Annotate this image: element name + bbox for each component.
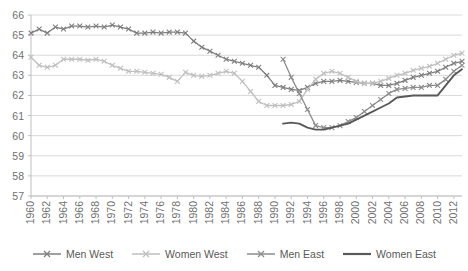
data-point-marker [443, 57, 448, 62]
y-tick-label: 60 [2, 131, 24, 141]
legend-item-men-west[interactable]: Men West [32, 248, 113, 260]
x-tick-label: 1968 [90, 201, 100, 224]
legend-label: Men East [280, 248, 324, 260]
x-tick-label: 2010 [432, 201, 442, 224]
x-tick-label: 1974 [139, 201, 149, 224]
x-tick-label: 1988 [253, 201, 263, 224]
y-tick-label: 59 [2, 151, 24, 161]
x-tick-label: 1978 [171, 201, 181, 224]
data-point-marker [281, 57, 286, 62]
data-point-marker [248, 89, 253, 94]
x-tick-label: 2006 [399, 201, 409, 224]
data-point-marker [460, 63, 465, 68]
x-tick-label: 1986 [236, 201, 246, 224]
x-tick-label: 1960 [25, 201, 35, 224]
x-tick-label: 1962 [41, 201, 51, 224]
chart-container: 57585960616263646566 1960196219641966196… [0, 0, 468, 271]
y-tick-label: 66 [2, 10, 24, 20]
y-tick-label: 61 [2, 111, 24, 121]
legend-item-women-east[interactable]: Women East [342, 248, 436, 260]
line-chart-plot [0, 0, 468, 271]
data-point-marker [370, 103, 375, 108]
legend-item-women-west[interactable]: Women West [131, 248, 228, 260]
series-line [283, 69, 462, 129]
y-tick-label: 63 [2, 70, 24, 80]
legend-item-men-east[interactable]: Men East [246, 248, 324, 260]
x-tick-label: 1984 [220, 201, 230, 224]
legend-swatch-icon [246, 249, 276, 259]
data-point-marker [191, 39, 196, 44]
x-tick-label: 2008 [415, 201, 425, 224]
data-point-marker [313, 77, 318, 82]
series-women-west [29, 51, 465, 108]
y-tick-label: 57 [2, 191, 24, 201]
x-tick-label: 1994 [302, 201, 312, 224]
gridlines [31, 15, 462, 196]
data-point-marker [443, 65, 448, 70]
data-point-marker [199, 45, 204, 50]
data-point-marker [256, 99, 261, 104]
legend-swatch-icon [131, 249, 161, 259]
legend-swatch-icon [342, 249, 372, 259]
series-women-east [283, 69, 462, 129]
data-point-marker [362, 109, 367, 114]
x-tick-label: 1992 [285, 201, 295, 224]
x-tick-label: 1980 [188, 201, 198, 224]
x-tick-label: 2002 [367, 201, 377, 224]
data-point-marker [175, 79, 180, 84]
legend-swatch-icon [32, 249, 62, 259]
y-tick-label: 62 [2, 90, 24, 100]
legend-label: Women East [376, 248, 436, 260]
x-tick-label: 1976 [155, 201, 165, 224]
x-tick-label: 1990 [269, 201, 279, 224]
x-tick-label: 1970 [106, 201, 116, 224]
y-tick-label: 64 [2, 50, 24, 60]
data-point-marker [208, 49, 213, 54]
legend-label: Men West [66, 248, 113, 260]
chart-legend: Men WestWomen WestMen EastWomen East [0, 248, 468, 260]
data-point-marker [240, 79, 245, 84]
x-tick-label: 1964 [58, 201, 68, 224]
x-tick-label: 2012 [448, 201, 458, 224]
x-tick-label: 2004 [383, 201, 393, 224]
data-point-marker [378, 97, 383, 102]
x-tick-label: 1972 [123, 201, 133, 224]
x-tick-label: 1996 [318, 201, 328, 224]
y-tick-label: 65 [2, 30, 24, 40]
data-point-marker [305, 107, 310, 112]
series-men-east [281, 57, 465, 130]
x-tick-label: 2000 [350, 201, 360, 224]
legend-label: Women West [165, 248, 228, 260]
data-point-marker [37, 27, 42, 32]
y-tick-label: 58 [2, 171, 24, 181]
x-tick-label: 1966 [74, 201, 84, 224]
x-tick-label: 1998 [334, 201, 344, 224]
x-tick-label: 1982 [204, 201, 214, 224]
data-point-marker [443, 77, 448, 82]
